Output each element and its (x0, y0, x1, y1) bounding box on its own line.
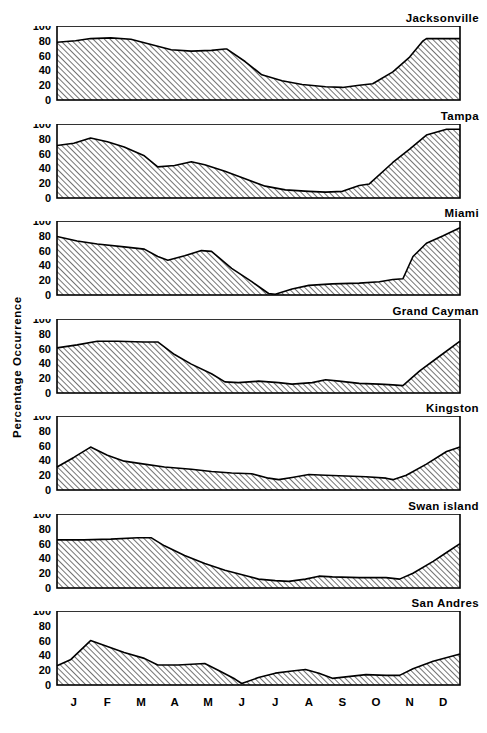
y-tick-label: 60 (39, 342, 51, 354)
panel-plot: 020406080100 (0, 416, 487, 498)
panel-title: San Andres (412, 596, 479, 610)
y-tick-label: 40 (39, 64, 51, 76)
x-axis-tick-row: JFMAMJJASOND (0, 695, 487, 715)
chart-panel: Grand Cayman020406080100 (0, 304, 487, 397)
y-tick-label: 60 (39, 635, 51, 647)
x-tick-label: S (334, 695, 350, 709)
x-tick-label: D (435, 695, 451, 709)
x-tick-label: A (167, 695, 183, 709)
y-tick-label: 0 (45, 387, 51, 399)
y-tick-label: 100 (33, 221, 51, 227)
y-tick-label: 0 (45, 679, 51, 691)
panel-plot: 020406080100 (0, 319, 487, 401)
y-tick-label: 20 (39, 567, 51, 579)
y-tick-label: 0 (45, 484, 51, 496)
y-tick-label: 0 (45, 94, 51, 106)
y-tick-label: 40 (39, 454, 51, 466)
y-tick-label: 40 (39, 162, 51, 174)
area-fill (57, 38, 460, 100)
chart-panel: Tampa020406080100 (0, 109, 487, 202)
figure-container: Percentage Occurrence Jacksonville020406… (0, 0, 487, 733)
x-tick-label: M (200, 695, 216, 709)
y-tick-label: 20 (39, 664, 51, 676)
x-tick-label: A (301, 695, 317, 709)
panel-plot: 020406080100 (0, 124, 487, 206)
y-tick-label: 80 (39, 132, 51, 144)
y-tick-label: 40 (39, 552, 51, 564)
chart-panel: Miami020406080100 (0, 206, 487, 299)
x-tick-label: J (234, 695, 250, 709)
y-tick-label: 60 (39, 537, 51, 549)
x-tick-label: F (99, 695, 115, 709)
panel-title: Grand Cayman (392, 304, 479, 318)
panel-title: Miami (444, 206, 479, 220)
y-tick-label: 80 (39, 620, 51, 632)
y-tick-label: 20 (39, 177, 51, 189)
y-tick-label: 80 (39, 425, 51, 437)
y-tick-label: 20 (39, 469, 51, 481)
panel-plot: 020406080100 (0, 514, 487, 596)
y-tick-label: 20 (39, 79, 51, 91)
panel-title: Jacksonville (406, 11, 479, 25)
y-tick-label: 20 (39, 274, 51, 286)
panel-plot: 020406080100 (0, 26, 487, 108)
chart-panel: Jacksonville020406080100 (0, 11, 487, 104)
y-tick-label: 60 (39, 440, 51, 452)
panel-title: Kingston (426, 401, 479, 415)
chart-panel: Swan island020406080100 (0, 499, 487, 592)
y-tick-label: 40 (39, 649, 51, 661)
panel-title: Tampa (441, 109, 479, 123)
panel-title: Swan island (408, 499, 479, 513)
y-tick-label: 100 (33, 26, 51, 32)
panel-plot: 020406080100 (0, 611, 487, 693)
area-fill (57, 447, 460, 490)
y-tick-label: 60 (39, 245, 51, 257)
y-tick-label: 60 (39, 147, 51, 159)
area-fill (57, 129, 460, 198)
chart-panel: San Andres020406080100 (0, 596, 487, 689)
y-tick-label: 20 (39, 372, 51, 384)
x-tick-label: O (368, 695, 384, 709)
y-tick-label: 40 (39, 259, 51, 271)
y-tick-label: 0 (45, 289, 51, 301)
y-tick-label: 100 (33, 124, 51, 130)
y-tick-label: 0 (45, 192, 51, 204)
y-tick-label: 60 (39, 50, 51, 62)
y-tick-label: 80 (39, 230, 51, 242)
y-tick-label: 100 (33, 319, 51, 325)
y-tick-label: 80 (39, 327, 51, 339)
area-fill (57, 228, 460, 295)
y-tick-label: 40 (39, 357, 51, 369)
chart-panel: Kingston020406080100 (0, 401, 487, 494)
x-tick-label: N (402, 695, 418, 709)
x-tick-label: J (66, 695, 82, 709)
x-tick-label: M (133, 695, 149, 709)
y-tick-label: 80 (39, 522, 51, 534)
y-tick-label: 100 (33, 611, 51, 617)
area-fill (57, 537, 460, 587)
y-tick-label: 80 (39, 35, 51, 47)
panel-plot: 020406080100 (0, 221, 487, 303)
y-tick-label: 100 (33, 416, 51, 422)
y-tick-label: 0 (45, 582, 51, 594)
x-tick-label: J (267, 695, 283, 709)
y-tick-label: 100 (33, 514, 51, 520)
